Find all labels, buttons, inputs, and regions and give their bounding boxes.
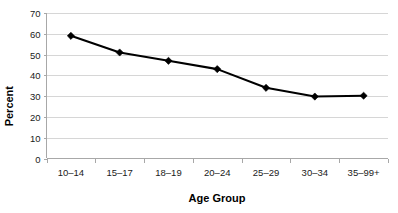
line-chart: 010203040506070 10–1415–1718–1920–2425–2… (0, 0, 398, 213)
data-point-marker (165, 57, 172, 64)
y-axis-tick-label: 70 (30, 8, 41, 19)
gridlines-group (47, 14, 389, 139)
y-axis-tick-label: 50 (30, 50, 41, 61)
x-axis-tick-label: 20–24 (204, 167, 230, 178)
x-axis-tick-label: 25–29 (253, 167, 279, 178)
y-axis-tick-label: 30 (30, 91, 41, 102)
data-point-marker (262, 84, 269, 91)
data-point-markers-group (67, 32, 367, 100)
y-axis-title: Percent (3, 86, 15, 127)
chart-container: 010203040506070 10–1415–1718–1920–2425–2… (0, 0, 398, 213)
x-axis-tick-label: 35–99+ (348, 167, 380, 178)
data-point-marker (311, 93, 318, 100)
x-axis-tick-label: 15–17 (106, 167, 132, 178)
x-axis-ticks-group (48, 159, 389, 163)
y-axis-tick-label: 60 (30, 29, 41, 40)
x-axis-tick-label: 18–19 (155, 167, 181, 178)
y-axis-tick-label: 40 (30, 70, 41, 81)
x-axis-tick-label: 10–14 (58, 167, 84, 178)
x-axis-title: Age Group (189, 192, 246, 204)
data-point-marker (214, 66, 221, 73)
y-axis-tick-label: 20 (30, 112, 41, 123)
y-axis-tick-label: 0 (35, 154, 40, 165)
data-point-marker (67, 32, 74, 39)
y-axis-labels-group: 010203040506070 (30, 8, 41, 165)
x-axis-tick-label: 30–34 (302, 167, 328, 178)
data-point-marker (360, 92, 367, 99)
x-axis-labels-group: 10–1415–1718–1920–2425–2930–3435–99+ (58, 167, 380, 178)
y-axis-tick-label: 10 (30, 133, 41, 144)
